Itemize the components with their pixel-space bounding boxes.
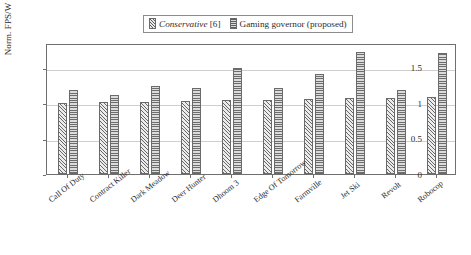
bar-group — [211, 45, 252, 174]
x-axis-label: Jet Ski — [333, 180, 361, 204]
legend-label-conservative-name: Conservative — [159, 19, 207, 29]
y-tick-label: 1 — [396, 100, 422, 109]
x-axis-label: Call Of Duty — [46, 180, 74, 204]
x-axis-label: Revolt — [374, 180, 402, 204]
y-tick-mark — [43, 104, 46, 105]
bar-gaming-governor — [192, 88, 201, 174]
chart-legend: Conservative [6] Gaming governor (propos… — [143, 15, 353, 33]
bar-group — [416, 45, 457, 174]
bar-group — [170, 45, 211, 174]
bar-group — [293, 45, 334, 174]
legend-label-conservative: Conservative [6] — [159, 19, 221, 29]
bar-gaming-governor — [233, 68, 242, 174]
bar-chart-figure: Conservative [6] Gaming governor (propos… — [0, 0, 471, 255]
bar-gaming-governor — [356, 52, 365, 174]
y-tick-mark — [43, 69, 46, 70]
y-tick-mark — [43, 140, 46, 141]
x-axis-label: Dhoom 3 — [210, 180, 238, 204]
x-axis-label: Robocop — [415, 180, 443, 204]
bar-group — [88, 45, 129, 174]
bar-conservative — [427, 97, 436, 174]
bar-conservative — [345, 98, 354, 174]
y-axis-title: Norm. FPS/W — [3, 0, 13, 77]
bar-group — [334, 45, 375, 174]
x-tick-mark — [67, 175, 68, 178]
x-tick-mark — [190, 175, 191, 178]
x-axis-label: Edge Of Tomorrow — [251, 180, 279, 204]
legend-entry-gaming-governor: Gaming governor (proposed) — [230, 18, 347, 29]
bar-gaming-governor — [110, 95, 119, 174]
x-axis-label: Dark Meadow — [128, 180, 156, 204]
legend-label-conservative-ref: [6] — [207, 19, 220, 29]
bar-gaming-governor — [69, 90, 78, 174]
bar-gaming-governor — [438, 53, 447, 174]
y-tick-label: 0.5 — [396, 135, 422, 144]
y-tick-mark — [43, 175, 46, 176]
legend-swatch-horizontal-hatch-icon — [230, 18, 237, 29]
x-tick-mark — [395, 175, 396, 178]
x-axis-label: Deer Hunter — [169, 180, 197, 204]
bar-conservative — [181, 101, 190, 174]
bar-conservative — [140, 102, 149, 174]
bar-gaming-governor — [151, 86, 160, 175]
x-tick-mark — [231, 175, 232, 178]
legend-swatch-diagonal-hatch-icon — [149, 18, 156, 29]
plot-area — [46, 44, 456, 175]
x-axis-label: Farmville — [292, 180, 320, 204]
x-tick-mark — [436, 175, 437, 178]
legend-label-gaming-governor: Gaming governor (proposed) — [240, 19, 347, 29]
legend-entry-conservative: Conservative [6] — [149, 18, 221, 29]
bar-conservative — [222, 100, 231, 174]
bars-layer — [47, 45, 455, 174]
bar-group — [47, 45, 88, 174]
y-tick-label: 1.5 — [396, 64, 422, 73]
bar-conservative — [99, 102, 108, 174]
y-tick-label: 0 — [396, 171, 422, 180]
bar-group — [129, 45, 170, 174]
bar-conservative — [263, 100, 272, 174]
bar-group — [252, 45, 293, 174]
x-axis-label: Contract Killer — [87, 180, 115, 204]
bar-gaming-governor — [315, 74, 324, 174]
x-tick-mark — [149, 175, 150, 178]
x-tick-mark — [354, 175, 355, 178]
bar-gaming-governor — [274, 88, 283, 174]
x-tick-mark — [108, 175, 109, 178]
bar-conservative — [386, 98, 395, 174]
bar-conservative — [58, 103, 67, 174]
x-tick-mark — [313, 175, 314, 178]
x-tick-mark — [272, 175, 273, 178]
